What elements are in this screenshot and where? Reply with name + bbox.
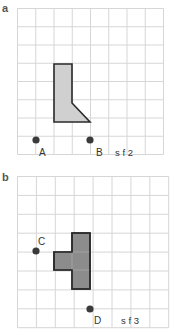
- point-b-label: B: [96, 147, 103, 158]
- point-b-dot: [86, 136, 93, 143]
- panel-b-grid: [18, 177, 169, 328]
- point-d-label: D: [94, 315, 101, 326]
- diagram-canvas: A B s f 2 C D s f 3: [0, 0, 174, 335]
- point-c-dot: [32, 247, 39, 254]
- panel-a-shape: [54, 64, 90, 122]
- point-a-dot: [32, 136, 39, 143]
- point-c-label: C: [38, 236, 45, 247]
- point-d-dot: [86, 305, 93, 312]
- scale-factor-b: s f 3: [121, 315, 139, 326]
- scale-factor-a: s f 2: [115, 147, 133, 158]
- panel-a-grid: [18, 9, 164, 155]
- point-a-label: A: [39, 147, 46, 158]
